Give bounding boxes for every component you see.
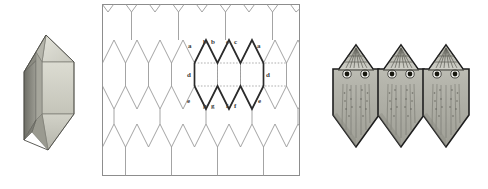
owl-tile-3 (423, 45, 469, 147)
owl-tile-2 (378, 45, 424, 147)
tiling-panel: a b b c c a d d e g g f f e (100, 0, 305, 189)
label-d-right: d (266, 71, 270, 79)
label-e-left: e (187, 97, 190, 105)
owl-tile-1 (333, 45, 379, 147)
label-c-right: c (234, 38, 237, 46)
label-g-left: g (203, 102, 207, 110)
label-b-left: b (203, 38, 207, 46)
figures-panel (325, 0, 488, 189)
owl-tessellation-illustration (325, 0, 488, 189)
label-a-right: a (257, 42, 261, 50)
crystal-illustration (0, 0, 100, 189)
label-e-right: e (258, 97, 261, 105)
crystal-facet-left-band (36, 52, 42, 120)
label-d-left: d (187, 71, 191, 79)
label-c-left: c (226, 38, 229, 46)
label-b-right: b (211, 38, 215, 46)
diagram-frame (103, 5, 300, 176)
label-a-left: a (188, 42, 192, 50)
crystal-panel (0, 0, 100, 189)
crystal-facet-front (42, 62, 74, 114)
label-g-right: g (211, 102, 215, 110)
tessellation-diagram: a b b c c a d d e g g f f e (100, 0, 305, 189)
